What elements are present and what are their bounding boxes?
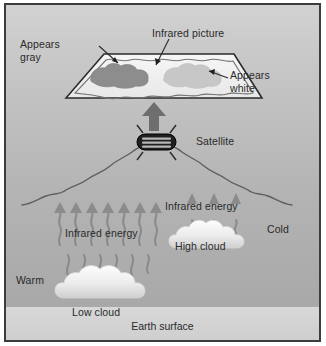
up-arrow-icon (142, 102, 166, 131)
label-satellite: Satellite (196, 135, 234, 148)
diagram-frame: Earth surface Appears gray Infrared pict… (4, 3, 321, 342)
label-appears-gray: Appears gray (20, 38, 60, 63)
satellite-panel-line-3 (142, 146, 171, 148)
satellite-panel-line-2 (142, 142, 171, 144)
wavy-line-right (166, 144, 292, 205)
label-infrared-energy-right: Infrared energy (165, 200, 238, 213)
label-infrared-picture: Infrared picture (152, 27, 224, 40)
label-warm: Warm (16, 274, 44, 287)
earth-surface-label: Earth surface (6, 320, 319, 332)
label-cold: Cold (267, 223, 289, 236)
wavy-line-left (22, 144, 148, 205)
atmosphere-wavy-line (22, 144, 292, 205)
infrared-satellite-diagram: Earth surface Appears gray Infrared pict… (0, 0, 326, 346)
label-infrared-energy-left: Infrared energy (65, 227, 138, 240)
label-low-cloud: Low cloud (72, 306, 120, 319)
label-appears-white: Appears white (230, 69, 270, 94)
up-arrow-shape (142, 102, 166, 131)
label-high-cloud: High cloud (175, 240, 226, 253)
satellite-panel-line-1 (142, 138, 171, 140)
warm-arrow-heads (54, 202, 162, 213)
